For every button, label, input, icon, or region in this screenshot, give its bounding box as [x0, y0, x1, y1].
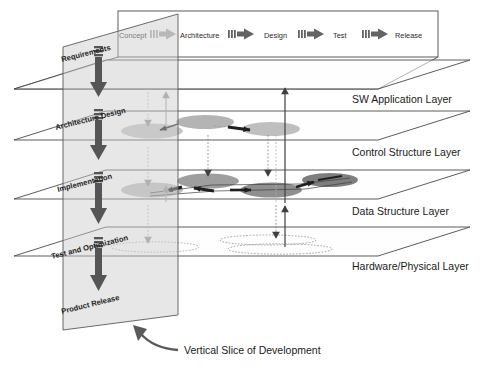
- process-step-label-concept: Concept: [119, 31, 147, 40]
- node-ellipse: [242, 122, 300, 136]
- layered-development-diagram: Requirements Architecture Design Impleme…: [0, 0, 485, 372]
- vertical-slice-surface: [63, 14, 178, 330]
- vertical-slice-panel: [63, 14, 178, 330]
- process-step-label-architecture: Architecture: [180, 31, 219, 40]
- node-ellipse: [176, 115, 234, 129]
- process-step-label-release: Release: [395, 31, 422, 40]
- caption-arrow-curve: [141, 334, 178, 350]
- process-step-label-test: Test: [333, 31, 347, 40]
- process-step-label-design: Design: [264, 31, 287, 40]
- layer-label-data-structure: Data Structure Layer: [352, 205, 449, 217]
- caption-group: Vertical Slice of Development: [133, 325, 321, 356]
- layer-label-hardware-physical: Hardware/Physical Layer: [352, 260, 469, 272]
- caption-vertical-slice: Vertical Slice of Development: [184, 344, 321, 356]
- layer-label-sw-application: SW Application Layer: [352, 93, 452, 105]
- diagram-canvas: Requirements Architecture Design Impleme…: [0, 0, 485, 372]
- layer-label-control-structure: Control Structure Layer: [352, 146, 461, 158]
- node-ellipse: [302, 173, 358, 187]
